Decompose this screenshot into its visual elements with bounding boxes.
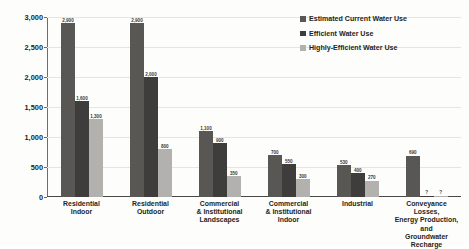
category-label-line: Outdoor — [117, 208, 184, 216]
category-label-line: & Institutional — [186, 208, 253, 216]
x-axis-category-labels: ResidentialIndoorResidentialOutdoorComme… — [47, 200, 461, 249]
category-label-line: Groundwater Recharge — [393, 233, 460, 249]
bar-value-label: 1,100 — [200, 126, 212, 131]
legend-item-label: Highly-Efficient Water Use — [309, 44, 397, 52]
legend-item[interactable]: Estimated Current Water Use — [300, 15, 407, 23]
category-label-line: Conveyance Losses, — [393, 200, 460, 216]
x-axis-category-label: Industrial — [323, 200, 392, 249]
category-label-line: Commercial — [186, 200, 253, 208]
bar[interactable]: 700 — [268, 155, 282, 197]
bar-value-label: 530 — [340, 160, 348, 165]
legend-item[interactable]: Efficient Water Use — [300, 30, 407, 38]
category-label-line: Indoor — [48, 208, 115, 216]
bar-value-label: ? — [425, 190, 428, 195]
bar[interactable]: ? — [420, 196, 434, 197]
bar[interactable]: 300 — [296, 179, 310, 197]
bar-group: 1,100900350 — [185, 17, 254, 197]
bar-value-label: 400 — [354, 168, 362, 173]
bar[interactable]: 350 — [227, 176, 241, 197]
y-axis-tick-label: 2,000 — [25, 73, 44, 82]
bar-value-label: 690 — [409, 150, 417, 155]
y-axis-tick-label: 3,000 — [25, 13, 44, 22]
bar-group: 2,9001,6001,300 — [47, 17, 116, 197]
bar-value-label: 700 — [271, 150, 279, 155]
bar-value-label: 2,900 — [62, 18, 74, 23]
legend-item-label: Estimated Current Water Use — [309, 15, 407, 23]
bar[interactable]: 1,100 — [199, 131, 213, 197]
bar-value-label: 270 — [368, 175, 376, 180]
x-axis-category-label: Commercial& InstitutionalIndoor — [254, 200, 323, 249]
category-label-line: Residential — [48, 200, 115, 208]
category-label-line: Indoor — [255, 216, 322, 224]
bar-value-label: 900 — [216, 138, 224, 143]
bar[interactable]: 2,900 — [130, 23, 144, 197]
x-axis-category-label: ResidentialIndoor — [47, 200, 116, 249]
bar-value-label: 350 — [230, 171, 238, 176]
bar[interactable]: 900 — [213, 143, 227, 197]
bar-value-label: 550 — [285, 159, 293, 164]
bar-value-label: 1,600 — [76, 96, 88, 101]
bar[interactable]: 1,600 — [75, 101, 89, 197]
bar[interactable]: 400 — [351, 173, 365, 197]
bar[interactable]: 530 — [337, 165, 351, 197]
category-label-line: Residential — [117, 200, 184, 208]
legend-swatch-highly-efficient-icon — [300, 45, 306, 51]
y-axis-tick-label: 1,000 — [25, 133, 44, 142]
x-axis-category-label: Commercial& InstitutionalLandscapes — [185, 200, 254, 249]
y-axis-tick-mark — [44, 197, 47, 198]
y-axis-tick-label: 500 — [31, 163, 43, 172]
bar-group: 2,9002,000800 — [116, 17, 185, 197]
category-label-line: & Institutional — [255, 208, 322, 216]
bar[interactable]: 2,000 — [144, 77, 158, 197]
category-label-line: Industrial — [324, 200, 391, 208]
bar-value-label: 2,900 — [131, 18, 143, 23]
bar[interactable]: 1,300 — [89, 119, 103, 197]
bar-value-label: 2,000 — [145, 72, 157, 77]
y-axis-tick-label: 0 — [39, 193, 43, 202]
x-axis-category-label: Conveyance Losses,Energy Production, and… — [392, 200, 461, 249]
bar[interactable]: 2,900 — [61, 23, 75, 197]
bar-value-label: ? — [439, 190, 442, 195]
legend-item-label: Efficient Water Use — [309, 30, 373, 38]
legend-swatch-estimated-current-icon — [300, 16, 306, 22]
bar[interactable]: 550 — [282, 164, 296, 197]
chart-legend: Estimated Current Water UseEfficient Wat… — [300, 15, 407, 52]
bar[interactable]: 690 — [406, 156, 420, 197]
x-axis-category-label: ResidentialOutdoor — [116, 200, 185, 249]
category-label-line: Landscapes — [186, 216, 253, 224]
bar-value-label: 1,300 — [90, 114, 102, 119]
bar[interactable]: ? — [434, 196, 448, 197]
legend-item[interactable]: Highly-Efficient Water Use — [300, 44, 407, 52]
bar-value-label: 800 — [161, 144, 169, 149]
y-axis-tick-label: 1,500 — [25, 103, 44, 112]
y-axis-tick-label: 2,500 — [25, 43, 44, 52]
category-label-line: Commercial — [255, 200, 322, 208]
category-label-line: Energy Production, and — [393, 216, 460, 232]
legend-swatch-efficient-icon — [300, 31, 306, 37]
bar[interactable]: 800 — [158, 149, 172, 197]
bar[interactable]: 270 — [365, 181, 379, 197]
bar-value-label: 300 — [299, 174, 307, 179]
